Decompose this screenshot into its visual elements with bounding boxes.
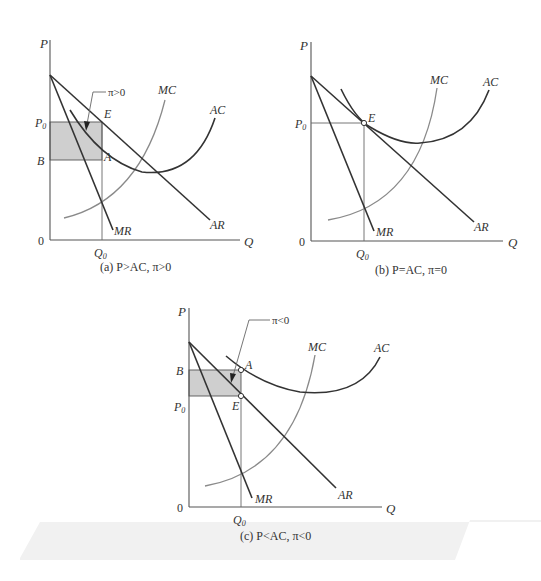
callout-text-c: π<0 [272,314,290,326]
label-mr-c: MR [254,492,273,506]
label-e-c: E [231,399,240,413]
label-ar-c: AR [337,488,353,502]
axis-label-p-c: P [177,304,186,319]
label-ac-c: AC [373,341,390,355]
label-q0-c: Q0 [233,513,246,528]
label-p0-c: P0 [173,400,185,415]
monopoly-profit-figure: P Q 0 P0 B Q0 E A MC AC AR MR π>0 (a) P>… [0,0,541,581]
caption-c: (c) P<AC, π<0 [240,529,311,543]
label-a-c: A [244,358,253,372]
axis-label-q-c: Q [386,501,396,516]
label-mc-c: MC [307,340,327,354]
panel-c-labels: P Q 0 B P0 Q0 A E MC AC AR MR π<0 (c) P<… [0,0,541,581]
origin-c: 0 [177,501,183,515]
label-b-c: B [176,364,184,378]
